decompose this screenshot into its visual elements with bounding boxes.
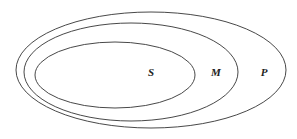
set-s-ellipse (35, 42, 195, 108)
set-m: M (24, 23, 238, 121)
set-m-label: M (210, 66, 222, 78)
set-p-label: P (261, 66, 268, 78)
nested-sets-diagram: P M S (0, 0, 297, 139)
set-s-label: S (148, 66, 154, 78)
set-s: S (35, 42, 195, 108)
set-m-ellipse (24, 23, 238, 121)
